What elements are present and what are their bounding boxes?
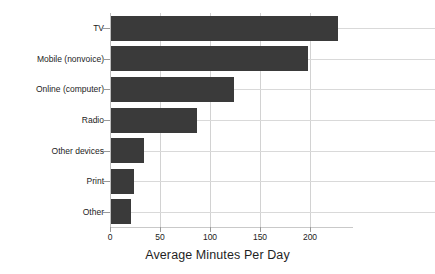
bar-mobile-nonvoice: [110, 46, 308, 71]
y-tick-label: Online (computer): [0, 84, 104, 94]
bar-row: [110, 16, 353, 41]
y-tick-mark: [103, 120, 110, 121]
x-tick-label: 50: [140, 232, 180, 242]
x-tick-mark: [110, 227, 111, 232]
x-tick-mark: [160, 227, 161, 232]
bar-print: [110, 169, 134, 194]
bar-row: [110, 169, 353, 194]
y-tick-mark: [103, 212, 110, 213]
bar-row: [110, 77, 353, 102]
y-tick-label: Mobile (nonvoice): [0, 54, 104, 64]
x-tick-label: 100: [190, 232, 230, 242]
bar-chart-figure: TVMobile (nonvoice)Online (computer)Radi…: [0, 0, 435, 274]
bar-row: [110, 138, 353, 163]
y-tick-label: Radio: [0, 115, 104, 125]
y-tick-mark: [103, 89, 110, 90]
bar-other: [110, 199, 131, 224]
x-tick-label: 150: [240, 232, 280, 242]
y-axis-line: [110, 13, 111, 227]
y-tick-label: Other devices: [0, 146, 104, 156]
x-tick-mark: [310, 227, 311, 232]
x-axis-line: [110, 227, 353, 228]
y-tick-mark: [103, 28, 110, 29]
bar-other-devices: [110, 138, 144, 163]
y-tick-mark: [103, 181, 110, 182]
bar-online-computer: [110, 77, 234, 102]
y-tick-label: TV: [0, 23, 104, 33]
x-tick-label: 200: [290, 232, 330, 242]
bar-row: [110, 199, 353, 224]
x-tick-mark: [260, 227, 261, 232]
bar-tv: [110, 16, 338, 41]
x-tick-label: 0: [90, 232, 130, 242]
y-tick-label: Other: [0, 207, 104, 217]
x-axis-title: Average Minutes Per Day: [0, 248, 435, 262]
y-tick-label: Print: [0, 176, 104, 186]
bar-row: [110, 108, 353, 133]
bar-row: [110, 46, 353, 71]
bar-radio: [110, 108, 197, 133]
x-tick-mark: [210, 227, 211, 232]
y-tick-mark: [103, 151, 110, 152]
y-tick-mark: [103, 59, 110, 60]
plot-area: [110, 13, 353, 227]
